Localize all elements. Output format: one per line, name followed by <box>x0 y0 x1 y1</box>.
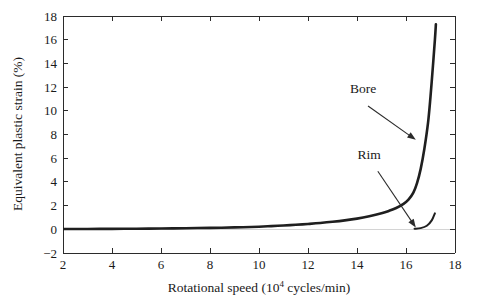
x-axis-title: Rotational speed (104 cycles/min) <box>168 279 351 295</box>
x-tick-label: 16 <box>400 257 414 272</box>
plot-background <box>63 16 455 253</box>
x-axis-title-base: Rotational speed (10 <box>168 280 280 295</box>
annotation-label-rim: Rim <box>358 147 382 162</box>
x-tick-label: 4 <box>109 257 116 272</box>
x-tick-label: 18 <box>449 257 462 272</box>
x-tick-label: 14 <box>351 257 365 272</box>
annotation-label-bore: Bore <box>350 81 376 96</box>
y-tick-label: 18 <box>44 9 57 24</box>
y-tick-label: 10 <box>44 103 57 118</box>
y-tick-label: 2 <box>51 198 58 213</box>
y-tick-label: 0 <box>51 222 58 237</box>
y-tick-label: 6 <box>51 151 58 166</box>
y-tick-label: 8 <box>51 127 58 142</box>
y-tick-label: 12 <box>44 80 57 95</box>
y-tick-label: 14 <box>44 56 58 71</box>
x-tick-label: 10 <box>253 257 266 272</box>
x-axis-title-tail: cycles/min) <box>284 280 350 295</box>
y-axis-title: Equivalent plastic strain (%) <box>10 57 25 211</box>
y-tick-label: −2 <box>43 246 57 261</box>
figure-container: 24681012141618 −2024681012141618 BoreRim… <box>0 0 480 303</box>
x-tick-label: 12 <box>302 257 315 272</box>
x-tick-label: 6 <box>158 257 165 272</box>
y-tick-label: 4 <box>51 174 58 189</box>
y-axis-tick-labels: −2024681012141618 <box>43 9 57 261</box>
x-tick-label: 8 <box>207 257 214 272</box>
y-tick-label: 16 <box>44 32 58 47</box>
plastic-strain-line-chart: 24681012141618 −2024681012141618 BoreRim… <box>0 0 480 303</box>
x-axis-tick-labels: 24681012141618 <box>60 257 462 272</box>
x-tick-label: 2 <box>60 257 67 272</box>
